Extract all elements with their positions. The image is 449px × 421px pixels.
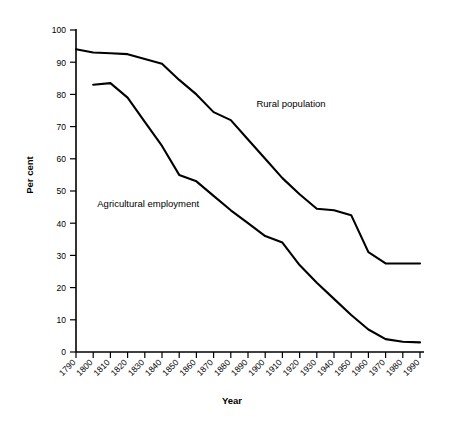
x-tick-label: 1900 [246,357,267,378]
x-tick-label: 1890 [229,357,250,378]
x-tick-label: 1940 [315,357,336,378]
series-annotations-group: Rural populationAgricultural employment [97,98,325,209]
series-annotation-agricultural-employment: Agricultural employment [97,198,199,209]
y-tick-label: 20 [57,283,67,293]
x-tick-label: 1880 [212,357,233,378]
chart-figure: 0102030405060708090100 Per cent 17901800… [0,0,449,421]
x-tick-label: 1950 [332,357,353,378]
x-axis-tick-marks [76,352,420,358]
y-tick-label: 0 [61,347,66,357]
x-tick-label: 1800 [74,357,95,378]
y-tick-label: 80 [57,90,67,100]
x-tick-label: 1990 [401,357,422,378]
y-axis-tick-marks [70,30,76,352]
series-line-rural-population [76,49,420,263]
y-tick-label: 90 [57,58,67,68]
x-tick-label: 1820 [109,357,130,378]
x-tick-label: 1970 [367,357,388,378]
x-tick-label: 1870 [195,357,216,378]
y-tick-label: 10 [57,315,67,325]
y-tick-label: 70 [57,122,67,132]
x-tick-label: 1840 [143,357,164,378]
x-axis-group: 1790180018101820183018401850186018701880… [57,352,424,406]
x-tick-label: 1860 [177,357,198,378]
x-tick-label: 1910 [263,357,284,378]
x-tick-label: 1790 [57,357,78,378]
x-tick-label: 1830 [126,357,147,378]
x-tick-label: 1810 [91,357,112,378]
y-tick-label: 50 [57,186,67,196]
x-tick-label: 1920 [281,357,302,378]
x-tick-label: 1930 [298,357,319,378]
x-tick-label: 1850 [160,357,181,378]
y-tick-label: 30 [57,251,67,261]
y-axis-tick-labels: 0102030405060708090100 [52,25,66,357]
y-tick-label: 40 [57,219,67,229]
y-axis-title: Per cent [24,155,35,193]
series-annotation-rural-population: Rural population [256,98,325,109]
y-axis-group: 0102030405060708090100 Per cent [24,25,76,357]
x-axis-title: Year [222,395,242,406]
x-tick-label: 1980 [384,357,405,378]
y-tick-label: 60 [57,154,67,164]
x-axis-tick-labels: 1790180018101820183018401850186018701880… [57,357,422,378]
data-series-group [76,49,420,342]
line-chart: 0102030405060708090100 Per cent 17901800… [0,0,449,421]
y-tick-label: 100 [52,25,66,35]
x-tick-label: 1960 [349,357,370,378]
series-line-agricultural-employment [93,83,420,342]
